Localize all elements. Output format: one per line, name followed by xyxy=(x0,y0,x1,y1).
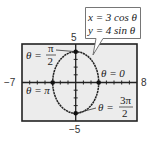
point-theta-0 xyxy=(96,80,101,85)
label-numerator: π xyxy=(48,42,54,54)
ymax-label: 5 xyxy=(71,32,77,43)
label-theta-pi-over-2: θ = xyxy=(26,49,42,61)
equation-y: y = 4 sin θ xyxy=(87,24,136,36)
label-denominator: 2 xyxy=(48,55,54,67)
label-numerator: 3π xyxy=(120,94,132,106)
xmax-label: 8 xyxy=(141,77,147,88)
label-theta-0: θ = 0 xyxy=(101,67,125,79)
label-theta-3pi-over-2: θ = xyxy=(98,101,114,113)
point-theta-pi-over-2 xyxy=(73,49,78,54)
label-denominator: 2 xyxy=(122,107,128,119)
label-theta-pi: θ = π xyxy=(26,84,50,96)
xmin-label: −7 xyxy=(4,77,16,88)
point-theta-pi xyxy=(50,80,55,85)
parametric-graph: 5 −5 −7 8 θ = π 2 θ = 0 θ = π θ = 3π 2 x… xyxy=(0,0,153,143)
ymin-label: −5 xyxy=(69,124,81,135)
equation-x: x = 3 cos θ xyxy=(87,11,137,23)
